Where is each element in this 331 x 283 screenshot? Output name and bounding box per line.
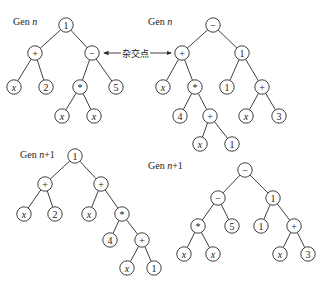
tree-node: − bbox=[238, 163, 252, 177]
tree-edge bbox=[246, 59, 259, 81]
tree-edge bbox=[66, 93, 76, 110]
tree-edge bbox=[187, 232, 195, 247]
tree-edge bbox=[50, 161, 69, 179]
tree-edge bbox=[105, 190, 118, 208]
tree-edge bbox=[126, 220, 137, 235]
tree-node: + bbox=[135, 233, 149, 247]
tree-node: + bbox=[287, 219, 301, 233]
node-label: x bbox=[243, 111, 249, 122]
node-label: − bbox=[242, 165, 248, 176]
node-label: − bbox=[210, 20, 216, 31]
tree-edge bbox=[218, 30, 237, 48]
tree-node: 5 bbox=[109, 80, 123, 94]
tree-node: x bbox=[156, 80, 170, 94]
tree-node: 1 bbox=[68, 149, 82, 163]
tree-node: * bbox=[188, 80, 202, 94]
tree-node: x bbox=[7, 80, 21, 94]
tree-node: + bbox=[38, 177, 52, 191]
tree-edge bbox=[37, 60, 44, 80]
tree-edge bbox=[202, 204, 214, 220]
tree-edge bbox=[130, 246, 138, 261]
node-label: 3 bbox=[277, 111, 282, 122]
node-label: * bbox=[193, 82, 198, 93]
node-label: 1 bbox=[64, 20, 69, 31]
tree-edge bbox=[187, 30, 207, 48]
tree-edge bbox=[198, 93, 206, 109]
tree-node: 1 bbox=[225, 137, 239, 151]
node-label: 4 bbox=[108, 235, 113, 246]
tree-node: * bbox=[191, 219, 205, 233]
tree-edge bbox=[80, 161, 96, 178]
tree-edge bbox=[113, 221, 119, 234]
tree-node: 2 bbox=[48, 207, 62, 221]
tree-edge bbox=[250, 175, 268, 193]
tree-node: x bbox=[120, 261, 134, 275]
tree-edge bbox=[283, 232, 291, 247]
node-label: x bbox=[91, 111, 97, 122]
tree-node: 4 bbox=[103, 233, 117, 247]
node-label: x bbox=[124, 263, 130, 274]
node-label: x bbox=[197, 139, 203, 150]
node-label: x bbox=[210, 249, 216, 260]
node-label: x bbox=[160, 82, 166, 93]
tree-node: 1 bbox=[147, 261, 161, 275]
tree-node: 5 bbox=[225, 219, 239, 233]
tree-node: x bbox=[87, 109, 101, 123]
tree-edge bbox=[82, 60, 89, 80]
tree-edge bbox=[183, 93, 191, 109]
tree-node: + bbox=[203, 109, 217, 123]
tree-edge bbox=[96, 59, 112, 81]
tree-node: x bbox=[273, 247, 287, 261]
generation-label: Gen n+1 bbox=[20, 149, 55, 160]
tree-edge bbox=[28, 190, 41, 208]
tree-edge bbox=[83, 93, 91, 109]
tree-node-crossover: − bbox=[85, 46, 99, 60]
node-label: + bbox=[32, 48, 38, 59]
tree-edge bbox=[40, 30, 60, 48]
node-label: + bbox=[98, 179, 104, 190]
tree-edge bbox=[167, 59, 179, 80]
tree-edge bbox=[214, 122, 227, 139]
tree-node: 1 bbox=[254, 219, 268, 233]
node-label: + bbox=[139, 235, 145, 246]
crossover-point-label: 杂交点 bbox=[121, 47, 150, 60]
node-label: 3 bbox=[306, 249, 311, 260]
tree-edge bbox=[230, 60, 239, 81]
tree-edge bbox=[264, 205, 270, 220]
crossover-diagram: 1+−x2*5xx−+1x*1+4+x3x11++x2x*4+x1−−1*51+… bbox=[0, 0, 331, 283]
generation-label: Gen n bbox=[148, 16, 172, 27]
tree-edge bbox=[202, 123, 207, 137]
node-label: + bbox=[179, 48, 185, 59]
tree-node: * bbox=[73, 80, 87, 94]
tree-node: 3 bbox=[272, 109, 286, 123]
node-label: 5 bbox=[114, 82, 119, 93]
tree-edge bbox=[201, 232, 209, 247]
tree-nodes: 1+−x2*5xx−+1x*1+4+x3x11++x2x*4+x1−−1*51+… bbox=[7, 18, 315, 275]
tree-edge bbox=[145, 247, 151, 262]
node-label: − bbox=[89, 48, 95, 59]
tree-node: + bbox=[94, 177, 108, 191]
tree-node: 1 bbox=[59, 18, 73, 32]
tree-node: * bbox=[115, 207, 129, 221]
tree-node: x bbox=[206, 247, 220, 261]
tree-edge bbox=[221, 204, 229, 219]
generation-label: Gen n+1 bbox=[148, 160, 183, 171]
node-label: − bbox=[215, 193, 221, 204]
tree-node: − bbox=[206, 18, 220, 32]
tree-edge bbox=[297, 232, 305, 247]
node-label: * bbox=[196, 221, 201, 232]
generation-label: Gen n bbox=[13, 16, 37, 27]
tree-edge bbox=[249, 93, 258, 109]
node-label: 2 bbox=[44, 82, 49, 93]
node-label: 2 bbox=[53, 209, 58, 220]
node-label: 1 bbox=[240, 48, 245, 59]
tree-edge bbox=[47, 191, 52, 207]
tree-edge bbox=[185, 60, 193, 81]
node-label: 1 bbox=[259, 221, 264, 232]
node-label: x bbox=[59, 111, 65, 122]
tree-node: x bbox=[55, 109, 69, 123]
tree-edge bbox=[92, 191, 99, 208]
node-label: x bbox=[86, 209, 92, 220]
tree-node: 1 bbox=[220, 80, 234, 94]
node-label: 1 bbox=[230, 139, 235, 150]
